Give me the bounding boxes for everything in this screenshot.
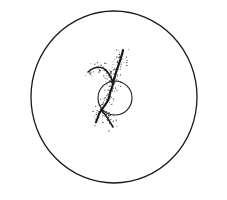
outer-cell-circle [31, 11, 197, 183]
stipple-dot [109, 81, 110, 82]
stipple-dot [121, 64, 122, 65]
stipple-dot [113, 101, 114, 102]
stipple-dot [99, 117, 100, 118]
lower-right-branch [101, 109, 113, 127]
stipple-dot [109, 86, 110, 87]
left-branch [88, 67, 113, 83]
stipple-dot [121, 63, 122, 64]
stipple-dot [93, 71, 94, 72]
filament-strands [88, 50, 123, 127]
stipple-dot [112, 91, 113, 92]
stipple-dot [128, 49, 129, 50]
stipple-dot [126, 62, 127, 63]
stipple-dot [117, 74, 118, 75]
stipple-dot [99, 70, 100, 71]
stipple-dot [111, 75, 112, 76]
stipple-dot [120, 86, 121, 87]
stipple-dot [102, 104, 103, 105]
stipple-dot [123, 58, 124, 59]
stipple-dot [100, 99, 101, 100]
stipple-dot [103, 115, 104, 116]
stipple-dot [111, 104, 112, 105]
stipple-dot [106, 78, 107, 79]
cell-illustration [0, 0, 227, 200]
stipple-dot [106, 84, 107, 85]
stipple-dot [112, 104, 113, 105]
stipple-dot [96, 110, 97, 111]
stipple-dot [110, 71, 111, 72]
stipple-dot [98, 71, 99, 72]
stipple-dot [113, 114, 114, 115]
stipple-dot [114, 116, 115, 117]
stipple-dot [93, 111, 94, 112]
stipple-dot [102, 122, 103, 123]
stipple-dot [94, 64, 95, 65]
stipple-dot [104, 116, 105, 117]
stipple-dot [90, 72, 91, 73]
stipple-dot [114, 84, 115, 85]
stipple-dot [109, 80, 110, 81]
stipple-dot [100, 72, 101, 73]
stipple-dot [116, 49, 117, 50]
stipple-dot [117, 62, 118, 63]
stipple-dot [116, 79, 117, 80]
stipple-dot [116, 56, 117, 57]
stipple-dot [112, 67, 113, 68]
stipple-dot [105, 81, 106, 82]
inner-nucleus-circle [98, 81, 132, 115]
stipple-dot [113, 73, 114, 74]
stipple-dot [102, 117, 103, 118]
stipple-dot [113, 69, 114, 70]
stipple-dot [118, 50, 119, 51]
stipple-dot [103, 101, 104, 102]
stipple-dot [126, 57, 127, 58]
stipple-dot [103, 102, 104, 103]
stipple-dot [96, 112, 97, 113]
stipple-dot [85, 75, 86, 76]
stipple-dot [106, 95, 107, 96]
stipple-dot [112, 64, 113, 65]
stipple-dot [110, 115, 111, 116]
stipple-dot [94, 125, 95, 126]
stipple-dot [96, 114, 97, 115]
stipple-dot [126, 65, 127, 66]
stipple-dot [113, 121, 114, 122]
stipple-dot [119, 54, 120, 55]
stipple-dot [114, 59, 115, 60]
stipple-dot [115, 69, 116, 70]
stipple-dot [104, 89, 105, 90]
stipple-dot [111, 97, 112, 98]
stipple-dot [99, 69, 100, 70]
stipple-dot [117, 76, 118, 77]
stipple-dot [92, 76, 93, 77]
stipple-dot [101, 104, 102, 105]
stipple-dot [95, 118, 96, 119]
stipple-dot [104, 63, 105, 64]
stipple-dot [108, 114, 109, 115]
stipple-dot [116, 120, 117, 121]
stipple-dot [111, 114, 112, 115]
stipple-dot [117, 60, 118, 61]
stipple-dot [120, 82, 121, 83]
stipple-dot [110, 119, 111, 120]
stipple-dot [107, 89, 108, 90]
stipple-dot [94, 116, 95, 117]
stipple-dot [102, 115, 103, 116]
stipple-dot [116, 80, 117, 81]
stipple-dot [108, 77, 109, 78]
stipple-dot [117, 126, 118, 127]
stipple-dot [109, 112, 110, 113]
stipple-dot [97, 62, 98, 63]
stipple-dot [108, 76, 109, 77]
stipple-dot [112, 61, 113, 62]
stipple-dot [120, 69, 121, 70]
stipple-dot [108, 130, 109, 131]
stipple-dot [114, 83, 115, 84]
stipple-dot [113, 88, 114, 89]
stipple-dot [114, 91, 115, 92]
stipple-dot [120, 74, 121, 75]
stipple-dot [109, 102, 110, 103]
stipple-dot [97, 113, 98, 114]
stipple-dot [100, 65, 101, 66]
stipple-dot [105, 63, 106, 64]
